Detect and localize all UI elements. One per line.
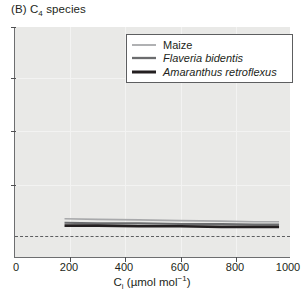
- legend-swatch-line-flaveria-bidentis: [132, 53, 156, 63]
- y-axis-tick: [11, 131, 16, 132]
- series-line-amaranthus-retroflexus: [65, 226, 280, 227]
- legend-swatch-line-maize: [132, 40, 156, 50]
- y-axis-tick: [11, 78, 16, 79]
- page-title: (B) C4 species: [11, 3, 86, 15]
- x-axis-tick-label: 200: [60, 261, 78, 273]
- x-axis-tick-label: 0: [13, 261, 19, 273]
- legend-item-maize: Maize: [132, 38, 286, 52]
- legend-swatch-line-amaranthus-retroflexus: [132, 67, 156, 77]
- y-axis-tick: [11, 185, 16, 186]
- legend-label-maize: Maize: [163, 39, 192, 51]
- panel-title-suffix: species: [43, 3, 86, 15]
- x-axis-title-units-close: ): [187, 276, 191, 288]
- x-axis-tick-label: 800: [226, 261, 244, 273]
- x-axis-title-units-open: (µmol mol: [124, 276, 178, 288]
- legend-label-flaveria-bidentis: Flaveria bidentis: [163, 52, 243, 64]
- legend-item-amaranthus-retroflexus: Amaranthus retroflexus: [132, 65, 286, 79]
- panel-label: (B): [11, 3, 27, 15]
- series-line-maize: [65, 219, 280, 222]
- y-axis-tick: [11, 27, 16, 28]
- legend-label-amaranthus-retroflexus: Amaranthus retroflexus: [163, 66, 277, 78]
- x-axis-tick-label: 600: [171, 261, 189, 273]
- x-axis-title-superscript: −1: [178, 274, 187, 283]
- series-line-flaveria-bidentis: [65, 223, 280, 225]
- legend: Maize Flaveria bidentis Amaranthus retro…: [126, 34, 293, 83]
- x-axis-tick-label: 1000: [276, 261, 300, 273]
- x-axis-tick-label: 400: [115, 261, 133, 273]
- figure-panel-b: (B) C4 species: [0, 0, 304, 293]
- x-axis-title: Ci (µmol mol−1): [114, 276, 191, 288]
- legend-item-flaveria-bidentis: Flaveria bidentis: [132, 52, 286, 66]
